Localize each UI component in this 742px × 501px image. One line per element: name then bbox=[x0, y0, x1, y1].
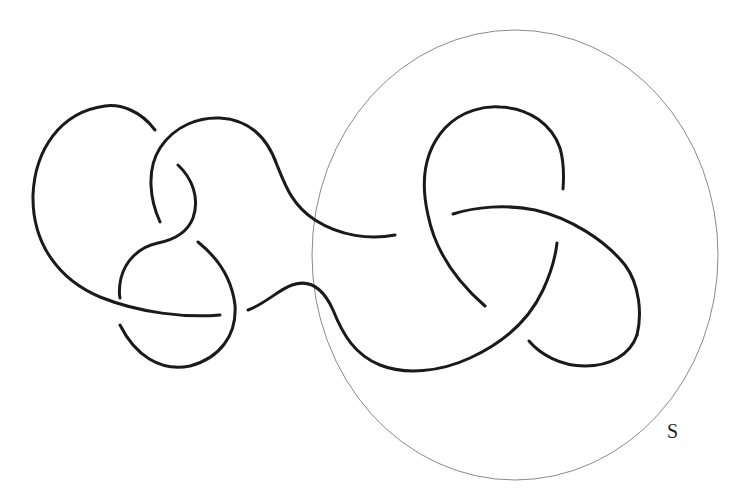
trefoil-lower-right-arc bbox=[529, 335, 637, 366]
middle-s-curve bbox=[119, 165, 195, 298]
lower-left-arc bbox=[120, 242, 235, 367]
connector-wave bbox=[248, 243, 557, 371]
sphere-label: S bbox=[667, 420, 678, 443]
left-outer-arc bbox=[33, 106, 220, 316]
sphere-s bbox=[312, 30, 718, 480]
trefoil-right-band bbox=[453, 207, 639, 335]
knot-diagram bbox=[0, 0, 742, 501]
